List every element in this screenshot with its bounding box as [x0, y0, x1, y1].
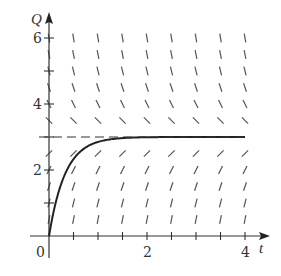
slope-segment: [244, 50, 246, 59]
slope-segment: [170, 182, 173, 191]
slope-segment: [121, 100, 125, 108]
slope-segment: [121, 199, 123, 208]
slope-field-chart: 024246tQ: [0, 0, 281, 276]
slope-segment: [122, 215, 124, 224]
slope-field: [46, 34, 248, 224]
slope-segment: [195, 67, 197, 76]
slope-segment: [244, 83, 247, 92]
slope-segment: [194, 100, 198, 108]
slope-segment: [219, 199, 221, 208]
slope-segment: [73, 34, 74, 43]
slope-segment: [168, 150, 174, 156]
slope-segment: [95, 150, 101, 156]
slope-segment: [220, 215, 222, 224]
axes: [30, 12, 270, 258]
slope-segment: [96, 100, 100, 108]
slope-segment: [119, 117, 125, 123]
y-tick-label: 6: [33, 30, 42, 46]
slope-segment: [146, 67, 148, 76]
slope-segment: [219, 83, 222, 92]
slope-segment: [195, 34, 196, 43]
slope-segment: [220, 34, 221, 43]
slope-segment: [146, 199, 148, 208]
slope-segment: [72, 182, 75, 191]
slope-segment: [121, 166, 125, 174]
slope-segment: [195, 182, 198, 191]
slope-segment: [97, 83, 100, 92]
slope-segment: [217, 117, 223, 123]
slope-segment: [122, 50, 124, 59]
slope-segment: [193, 150, 199, 156]
slope-segment: [195, 199, 197, 208]
y-tick-label: 4: [33, 96, 42, 112]
slope-segment: [242, 117, 248, 123]
y-tick-label: 2: [33, 162, 42, 178]
slope-segment: [171, 50, 173, 59]
x-tick-label: 4: [241, 244, 250, 260]
slope-segment: [96, 166, 100, 174]
slope-segment: [170, 83, 173, 92]
axis-labels: 024246tQ: [31, 11, 264, 260]
x-tick-label: 0: [36, 244, 45, 260]
slope-segment: [244, 67, 246, 76]
slope-segment: [243, 100, 247, 108]
slope-segment: [146, 83, 149, 92]
slope-segment: [72, 83, 75, 92]
slope-segment: [146, 215, 148, 224]
slope-segment: [122, 34, 123, 43]
slope-segment: [170, 67, 172, 76]
slope-segment: [242, 150, 248, 156]
slope-segment: [97, 50, 99, 59]
slope-segment: [72, 100, 76, 108]
slope-segment: [170, 100, 174, 108]
slope-segment: [73, 215, 75, 224]
slope-segment: [244, 199, 246, 208]
slope-segment: [217, 150, 223, 156]
slope-segment: [146, 182, 149, 191]
slope-segment: [220, 50, 222, 59]
slope-segment: [244, 182, 247, 191]
slope-segment: [219, 67, 221, 76]
slope-segment: [121, 182, 124, 191]
slope-segment: [97, 182, 100, 191]
slope-segment: [119, 150, 125, 156]
slope-segment: [195, 215, 197, 224]
slope-segment: [72, 166, 76, 174]
slope-segment: [97, 199, 99, 208]
x-tick-label: 2: [143, 244, 152, 260]
slope-segment: [121, 83, 124, 92]
slope-segment: [145, 166, 149, 174]
slope-segment: [244, 34, 245, 43]
slope-segment: [219, 100, 223, 108]
slope-segment: [195, 50, 197, 59]
slope-segment: [171, 215, 173, 224]
solution-curves: [39, 137, 245, 236]
y-axis-label: Q: [31, 11, 42, 27]
slope-segment: [72, 67, 74, 76]
slope-segment: [72, 199, 74, 208]
slope-segment: [171, 34, 172, 43]
x-axis-label: t: [259, 240, 264, 256]
slope-segment: [168, 117, 174, 123]
slope-segment: [144, 150, 150, 156]
slope-segment: [97, 67, 99, 76]
slope-segment: [121, 67, 123, 76]
slope-segment: [70, 117, 76, 123]
slope-segment: [146, 50, 148, 59]
slope-segment: [170, 199, 172, 208]
slope-segment: [193, 117, 199, 123]
slope-segment: [243, 166, 247, 174]
slope-segment: [144, 117, 150, 123]
slope-segment: [97, 34, 98, 43]
slope-segment: [73, 50, 75, 59]
slope-segment: [219, 182, 222, 191]
slope-segment: [170, 166, 174, 174]
slope-segment: [195, 83, 198, 92]
slope-segment: [97, 215, 99, 224]
slope-segment: [145, 100, 149, 108]
slope-segment: [219, 166, 223, 174]
slope-segment: [244, 215, 246, 224]
slope-segment: [146, 34, 147, 43]
slope-segment: [194, 166, 198, 174]
slope-segment: [95, 117, 101, 123]
